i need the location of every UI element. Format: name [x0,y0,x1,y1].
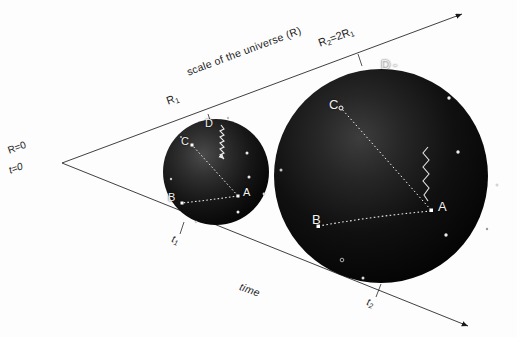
star [170,178,172,180]
star [456,150,459,153]
star [248,176,251,179]
point-label-b-t1: B [168,191,175,203]
star [237,211,240,214]
figure-canvas: scale of the universe (R) time R=0 t=0 R… [0,0,517,337]
point-c-t1 [191,144,194,147]
star [246,152,249,155]
point-label-a-t1: A [243,186,250,198]
sphere-t2-body [274,69,488,283]
point-label-b-t2: B [312,212,321,227]
point-a-t2 [430,209,434,213]
star [447,96,450,99]
star [444,233,447,236]
star [227,117,229,119]
point-d-t2-tail: - [393,57,397,72]
star [280,169,283,172]
point-b-t1 [181,202,184,205]
sphere-t1 [163,117,269,225]
sphere-t1-body [163,119,269,225]
point-label-c-t1: C [181,135,189,147]
tick-t1 [180,222,184,234]
star [496,184,499,187]
sphere-t2 [274,69,499,283]
star [263,193,266,196]
tick-r2 [358,54,362,66]
point-label-c-t2: C [329,97,338,112]
star [195,221,198,224]
point-a-t1 [237,195,240,198]
point-label-d-t2: D [381,57,390,72]
star [362,277,365,280]
point-label-d-t1: D [205,117,213,129]
star [486,228,488,230]
point-label-a-t2: A [438,199,447,214]
